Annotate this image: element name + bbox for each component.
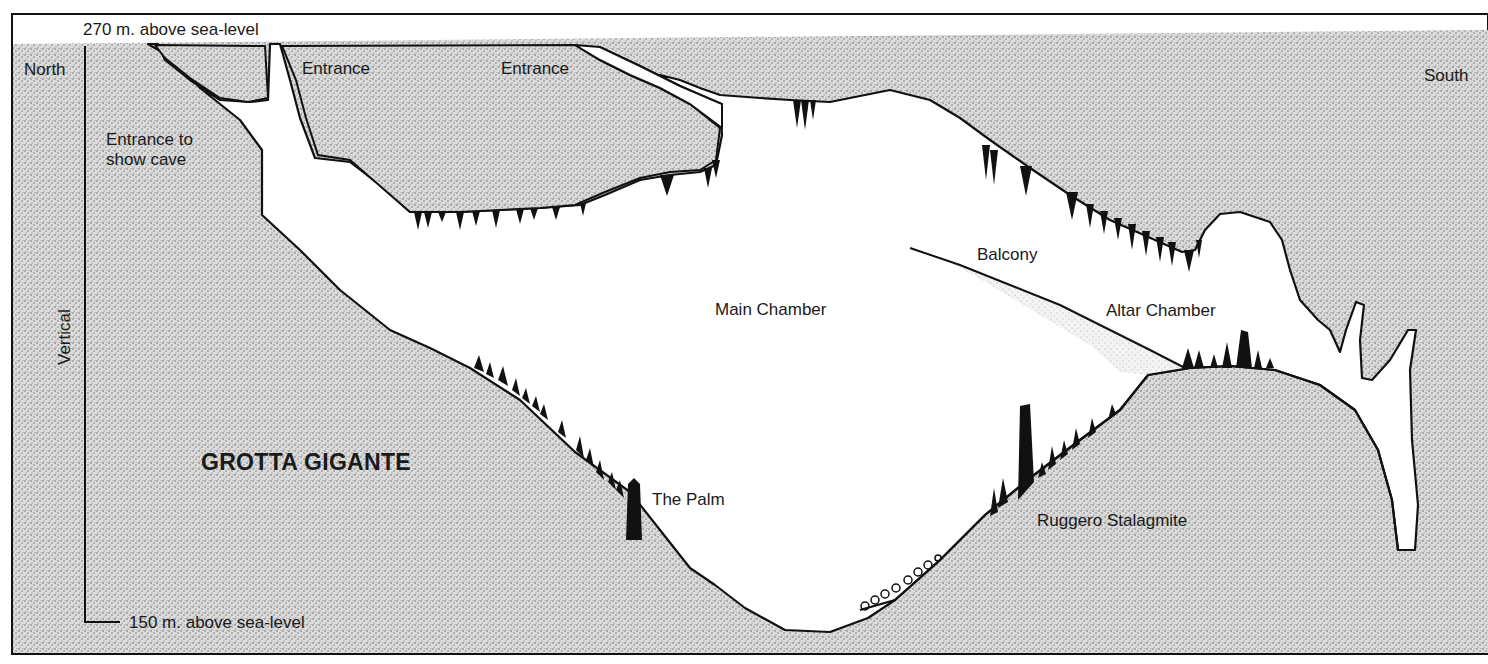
label-the-palm: The Palm: [652, 490, 725, 510]
label-altar-chamber: Altar Chamber: [1106, 301, 1216, 321]
label-balcony: Balcony: [977, 245, 1037, 265]
scale-axis-label: Vertical: [55, 309, 75, 365]
scale-bottom-label: 150 m. above sea-level: [129, 613, 305, 633]
label-main-chamber: Main Chamber: [715, 300, 827, 320]
orientation-south: South: [1424, 66, 1468, 86]
orientation-north: North: [24, 60, 66, 80]
scale-top-label: 270 m. above sea-level: [83, 20, 259, 40]
label-entrance-1: Entrance: [302, 59, 370, 79]
label-ruggero-stalagmite: Ruggero Stalagmite: [1037, 511, 1187, 531]
diagram-title: GROTTA GIGANTE: [201, 452, 411, 472]
the-palm-formation: [626, 478, 642, 540]
label-entrance-show-cave: Entrance to show cave: [106, 130, 216, 170]
cave-cross-section: [0, 0, 1488, 664]
label-entrance-2: Entrance: [501, 59, 569, 79]
